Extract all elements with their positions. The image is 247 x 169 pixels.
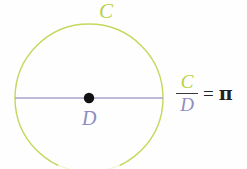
ratio-formula: C D = π — [176, 72, 233, 115]
diameter-label: D — [82, 108, 96, 128]
circumference-label: C — [99, 1, 113, 22]
fraction-numerator-c: C — [179, 72, 196, 93]
center-dot — [84, 93, 94, 103]
equals-sign: = — [203, 84, 214, 103]
fraction: C D — [176, 72, 198, 115]
figure-container: C D C D = π — [0, 0, 247, 169]
fraction-denominator-d: D — [178, 94, 196, 115]
circle-bottom-fade — [58, 166, 120, 169]
pi-symbol: π — [219, 84, 233, 103]
